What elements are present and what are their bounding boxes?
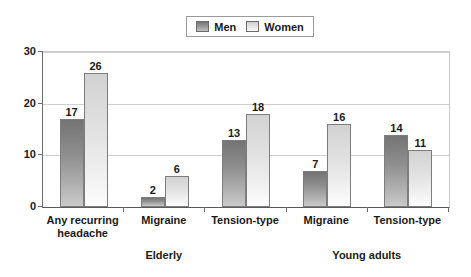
women-swatch-icon [246, 21, 259, 32]
bar-men-0: 17 [60, 119, 84, 207]
y-axis: 0102030 [0, 51, 36, 207]
bar-chart-figure: Men Women 0102030 17262613187161411 Any … [0, 0, 471, 277]
y-axis-tick-mark [38, 206, 43, 207]
bar-value-label: 2 [150, 184, 156, 196]
bar-value-label: 26 [89, 60, 101, 72]
bar-value-label: 13 [228, 127, 240, 139]
x-axis-group-label-0: Elderly [42, 249, 286, 261]
x-axis-tick-mark [448, 207, 449, 212]
x-axis-category-label: Migraine [286, 214, 367, 227]
gridline [43, 52, 449, 53]
bar-men-3: 7 [303, 171, 327, 207]
bar-women-1: 6 [165, 176, 189, 207]
bar-women-3: 16 [327, 124, 351, 207]
legend-entry-women: Women [246, 21, 304, 33]
bar-value-label: 18 [252, 101, 264, 113]
bar-men-2: 13 [222, 140, 246, 207]
bar-women-0: 26 [84, 73, 108, 207]
legend-label-men: Men [214, 21, 236, 33]
y-axis-tick-label: 10 [6, 148, 36, 160]
x-axis-tick-mark [123, 207, 124, 212]
x-axis-tick-mark [204, 207, 205, 212]
bar-value-label: 17 [65, 106, 77, 118]
x-axis-group-label-1: Young adults [286, 249, 448, 261]
y-axis-tick-mark [38, 51, 43, 52]
x-axis-tick-mark [367, 207, 368, 212]
legend-label-women: Women [264, 21, 304, 33]
chart-legend: Men Women [186, 16, 314, 37]
y-axis-tick-mark [38, 103, 43, 104]
x-axis-category-label: Tension-type [367, 214, 448, 227]
bar-value-label: 16 [333, 111, 345, 123]
bar-value-label: 14 [390, 122, 402, 134]
plot-area: 17262613187161411 [42, 51, 450, 208]
x-axis-tick-mark [286, 207, 287, 212]
legend-entry-men: Men [196, 21, 236, 33]
bar-men-1: 2 [141, 197, 165, 207]
bar-value-label: 7 [312, 158, 318, 170]
bar-value-label: 6 [174, 163, 180, 175]
y-axis-tick-mark [38, 154, 43, 155]
x-axis-category-label: Tension-type [204, 214, 285, 227]
x-axis-category-label: Any recurringheadache [42, 214, 123, 240]
y-axis-tick-label: 30 [6, 45, 36, 57]
men-swatch-icon [196, 21, 209, 32]
bar-value-label: 11 [415, 137, 427, 149]
bar-women-4: 11 [408, 150, 432, 207]
bar-women-2: 18 [246, 114, 270, 207]
bar-men-4: 14 [384, 135, 408, 207]
y-axis-tick-label: 20 [6, 97, 36, 109]
y-axis-tick-label: 0 [6, 200, 36, 212]
x-axis-category-label: Migraine [123, 214, 204, 227]
